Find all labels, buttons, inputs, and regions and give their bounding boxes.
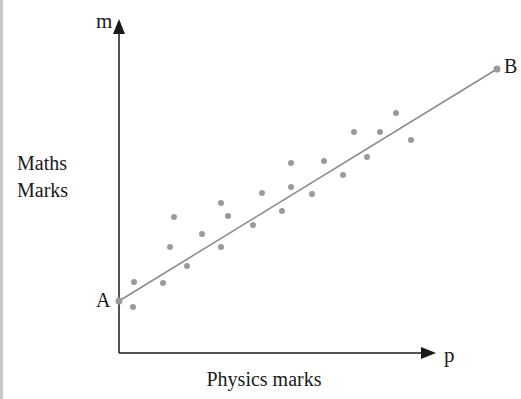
data-point: [288, 184, 294, 190]
data-point: [184, 263, 190, 269]
y-axis-arrow-icon: [113, 19, 125, 34]
data-point: [321, 158, 327, 164]
data-point: [279, 208, 285, 214]
data-point: [259, 190, 265, 196]
y-axis-title-line2: Marks: [17, 179, 68, 201]
x-axis-symbol: p: [444, 343, 455, 367]
x-axis-arrow-icon: [421, 347, 436, 359]
data-point: [199, 231, 205, 237]
data-point: [130, 304, 136, 310]
fit-line-segment: [119, 69, 497, 301]
data-point: [377, 129, 383, 135]
data-point: [225, 213, 231, 219]
data-point: [288, 160, 294, 166]
point-a-label: A: [96, 289, 111, 311]
point-a-marker: [116, 298, 123, 305]
point-b-label: B: [504, 55, 517, 77]
data-point: [167, 244, 173, 250]
data-point: [160, 280, 166, 286]
data-point: [340, 172, 346, 178]
data-point: [351, 129, 357, 135]
data-point: [408, 137, 414, 143]
data-point: [250, 222, 256, 228]
data-points: [130, 110, 414, 310]
point-b-marker: [494, 66, 501, 73]
y-axis-title-line1: Maths: [17, 152, 67, 174]
data-point: [309, 191, 315, 197]
line-of-best-fit: [116, 66, 501, 305]
data-point: [393, 110, 399, 116]
data-point: [171, 214, 177, 220]
data-point: [131, 279, 137, 285]
y-axis-symbol: m: [96, 9, 112, 33]
scatter-chart: m p Maths Marks Physics marks A B: [0, 0, 521, 399]
data-point: [364, 154, 370, 160]
data-point: [218, 200, 224, 206]
axes: [113, 19, 436, 359]
x-axis-title: Physics marks: [207, 368, 322, 391]
data-point: [218, 244, 224, 250]
